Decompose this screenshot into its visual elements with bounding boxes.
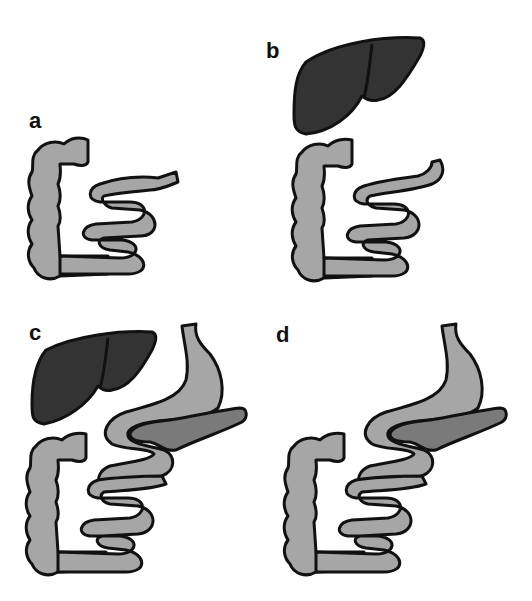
panel-a: a xyxy=(0,0,266,300)
liver-stomach-pancreas-intestine-illustration xyxy=(0,300,266,601)
colon-small-intestine-illustration xyxy=(0,0,266,300)
panel-c: c xyxy=(0,300,266,600)
stomach-pancreas-intestine-illustration xyxy=(266,300,532,601)
panel-b: b xyxy=(266,0,532,300)
small-intestine-shape xyxy=(316,476,426,572)
liver-colon-intestine-illustration xyxy=(266,0,532,300)
panel-d: d xyxy=(266,300,532,600)
liver-shape xyxy=(294,38,424,134)
small-intestine-shape xyxy=(60,172,178,274)
stomach-shape xyxy=(358,324,482,488)
small-intestine-shape xyxy=(58,476,166,572)
small-intestine-shape xyxy=(324,160,443,276)
